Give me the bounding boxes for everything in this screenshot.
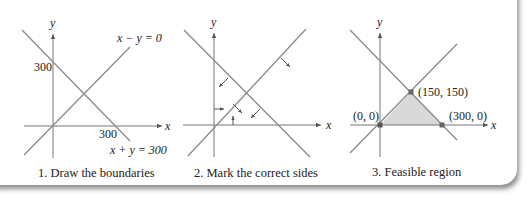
x-axis-label: x xyxy=(164,119,171,133)
y-intercept-label: 300 xyxy=(34,60,52,74)
vertex-150-150 xyxy=(409,90,414,95)
y-axis-label: y xyxy=(376,15,383,29)
y-axis-label: y xyxy=(49,16,56,30)
equation-label-x-minus-y: x − y = 0 xyxy=(116,31,162,45)
vertex-label-300-0: (300, 0) xyxy=(449,109,487,123)
panel-feasible-region: y x (0, 0) (150, 150) (300, 0) 3. Feasib… xyxy=(350,15,497,179)
x-intercept-label: 300 xyxy=(99,127,117,141)
vertex-300-0 xyxy=(440,123,445,128)
panel-mark-sides: y x 2. Mark the correct sides xyxy=(183,15,332,180)
y-axis-label: y xyxy=(210,15,217,29)
x-axis-label: x xyxy=(490,118,497,132)
line-x-plus-y-300 xyxy=(22,30,130,141)
panel-draw-boundaries: y x 300 300 x − y = 0 x + y = 300 1. Dra… xyxy=(22,16,171,180)
equation-label-x-plus-y: x + y = 300 xyxy=(109,143,167,157)
x-axis-label: x xyxy=(325,118,332,132)
caption-1: 1. Draw the boundaries xyxy=(38,166,155,180)
caption-3: 3. Feasible region xyxy=(372,165,462,179)
vertex-origin xyxy=(378,123,383,128)
lp-figure: y x 300 300 x − y = 0 x + y = 300 1. Dra… xyxy=(0,0,530,199)
line-x-plus-y-300 xyxy=(184,30,310,157)
caption-2: 2. Mark the correct sides xyxy=(194,166,318,180)
vertex-label-origin: (0, 0) xyxy=(353,109,379,123)
line-x-minus-y-0 xyxy=(188,29,306,156)
vertex-label-150-150: (150, 150) xyxy=(418,85,468,99)
